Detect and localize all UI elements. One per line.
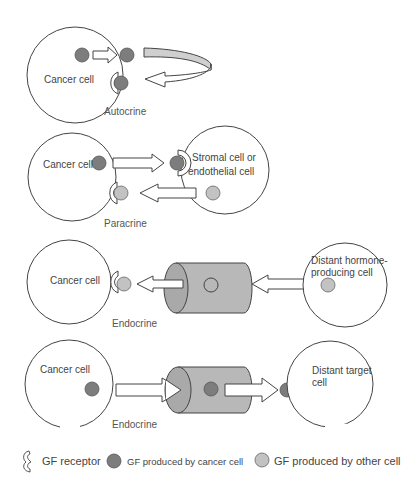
legend-receptor: GF receptor — [42, 455, 101, 467]
gf-other-dot-bound — [117, 277, 131, 291]
stromal-label-1: Stromal cell or — [192, 152, 257, 163]
cell-clip — [325, 424, 355, 430]
target-label-1: Distant target — [312, 365, 372, 376]
cell-clip — [60, 424, 80, 432]
signaling-diagram: Cancer cell Autocrine Cancer cell Stroma… — [0, 0, 411, 488]
gf-cancer-dot — [92, 156, 106, 170]
other-gf-legend-icon — [255, 453, 269, 467]
cell-label: Cancer cell — [44, 74, 94, 85]
target-label-2: cell — [312, 377, 327, 388]
autocrine-panel: Cancer cell Autocrine — [27, 27, 211, 123]
cell-label: Cancer cell — [50, 275, 100, 286]
caption-autocrine: Autocrine — [104, 106, 147, 117]
source-label-1: Distant hormone- — [311, 255, 388, 266]
cell-label: Cancer cell — [40, 364, 90, 375]
gf-cancer-dot-bound — [170, 156, 184, 170]
legend-cancer-gf: GF produced by cancer cell — [127, 456, 243, 467]
source-label-2: producing cell — [311, 267, 373, 278]
distant-target-cell — [287, 341, 373, 427]
gf-cancer-dot — [120, 48, 134, 62]
gf-in-vessel — [204, 278, 218, 292]
endocrine-in-panel: Cancer cell Distant hormone- producing c… — [27, 240, 388, 329]
cell-label: Cancer cell — [43, 159, 93, 170]
secretion-arrow — [113, 154, 164, 172]
legend: GF receptor GF produced by cancer cell G… — [24, 451, 401, 472]
gf-cancer-dot — [75, 48, 89, 62]
gf-in-vessel — [204, 382, 218, 396]
endocrine-out-panel: Cancer cell Distant target cell Endocrin… — [25, 340, 373, 432]
cancer-cell — [25, 340, 113, 428]
gf-cancer-dot-bound — [114, 76, 128, 90]
legend-other-gf: GF produced by other cell — [274, 455, 401, 467]
cancer-gf-legend-icon — [107, 454, 121, 468]
gf-other-dot — [321, 278, 335, 292]
caption-endocrine-in: Endocrine — [112, 318, 157, 329]
paracrine-panel: Cancer cell Stromal cell or endothelial … — [28, 126, 269, 229]
caption-endocrine-out: Endocrine — [112, 419, 157, 430]
gf-other-dot — [206, 186, 220, 200]
caption-paracrine: Paracrine — [104, 218, 147, 229]
cancer-cell — [28, 133, 116, 221]
curved-arrow-top — [144, 48, 211, 70]
receptor-legend-icon — [24, 451, 31, 472]
curved-arrow-return — [145, 64, 211, 87]
gf-cancer-dot — [85, 382, 99, 396]
gf-other-dot-bound — [114, 186, 128, 200]
stromal-label-2: endothelial cell — [188, 166, 254, 177]
